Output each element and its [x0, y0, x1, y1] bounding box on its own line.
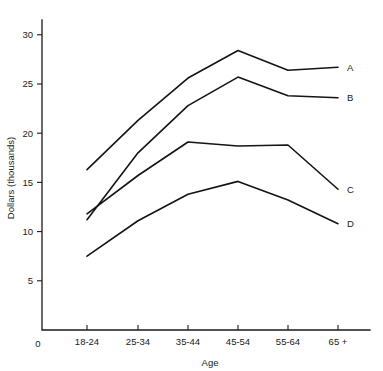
series-line-C — [87, 142, 338, 214]
origin-tick-label: 0 — [35, 338, 40, 349]
chart-canvas: 51015202530 18-2425-3435-4445-5455-6465 … — [0, 0, 383, 371]
y-axis-ticks — [37, 35, 42, 281]
y-tick-label: 15 — [22, 177, 33, 188]
series-label-A: A — [347, 62, 354, 73]
x-tick-label: 18-24 — [75, 336, 99, 347]
x-tick-label: 35-44 — [176, 336, 200, 347]
x-tick-label: 55-64 — [276, 336, 300, 347]
y-axis-title: Dollars (thousands) — [5, 137, 16, 219]
y-tick-label: 10 — [22, 226, 33, 237]
y-tick-label: 5 — [28, 275, 33, 286]
x-axis-ticks — [87, 325, 338, 330]
series-label-B: B — [347, 92, 353, 103]
data-series-group — [87, 51, 338, 257]
y-tick-label: 30 — [22, 29, 33, 40]
x-axis-tick-labels: 18-2425-3435-4445-5455-6465 + — [75, 336, 348, 347]
x-tick-label: 45-54 — [226, 336, 250, 347]
series-labels-group: ABCD — [347, 62, 354, 229]
x-tick-label: 65 + — [329, 336, 348, 347]
x-tick-label: 25-34 — [126, 336, 150, 347]
y-axis-tick-labels: 51015202530 — [22, 29, 33, 286]
line-chart: 51015202530 18-2425-3435-4445-5455-6465 … — [0, 0, 383, 371]
y-tick-label: 25 — [22, 78, 33, 89]
series-line-D — [87, 181, 338, 256]
axes — [37, 20, 370, 330]
series-label-C: C — [347, 184, 354, 195]
series-line-A — [87, 51, 338, 170]
y-tick-label: 20 — [22, 128, 33, 139]
series-line-B — [87, 77, 338, 220]
series-label-D: D — [347, 218, 354, 229]
x-axis-title: Age — [202, 357, 219, 368]
